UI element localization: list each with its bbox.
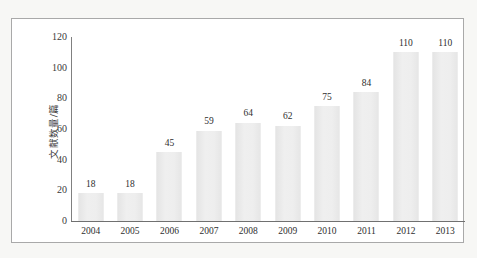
x-axis-tick-label: 2013 bbox=[436, 227, 455, 237]
bar-value-label: 84 bbox=[362, 79, 372, 89]
bar-2005[interactable] bbox=[118, 193, 143, 221]
bar-group[interactable]: 642008 bbox=[229, 37, 268, 221]
bar-2008[interactable] bbox=[236, 123, 261, 221]
x-axis-tick-label: 2012 bbox=[396, 227, 415, 237]
bar-group[interactable]: 842011 bbox=[347, 37, 386, 221]
chart-figure-frame: 文献数量/篇 020406080100120182004182005452006… bbox=[11, 18, 464, 243]
x-axis-line bbox=[71, 221, 465, 222]
bar-group[interactable]: 452006 bbox=[150, 37, 189, 221]
bar-value-label: 64 bbox=[244, 109, 254, 119]
bar-value-label: 59 bbox=[204, 117, 214, 127]
x-axis-tick-label: 2010 bbox=[318, 227, 337, 237]
bar-2010[interactable] bbox=[315, 106, 340, 221]
y-axis-tick-label: 120 bbox=[52, 32, 67, 42]
y-axis-tick-label: 0 bbox=[62, 216, 67, 226]
y-axis-tick-label: 100 bbox=[52, 63, 67, 73]
bar-2012[interactable] bbox=[393, 52, 418, 221]
x-axis-tick-label: 2006 bbox=[160, 227, 179, 237]
bar-group[interactable]: 1102013 bbox=[426, 37, 465, 221]
plot-area: 0204060801001201820041820054520065920076… bbox=[71, 37, 465, 221]
bar-value-label: 62 bbox=[283, 112, 293, 122]
bar-group[interactable]: 752010 bbox=[307, 37, 346, 221]
bar-2006[interactable] bbox=[157, 152, 182, 221]
bar-group[interactable]: 1102012 bbox=[386, 37, 425, 221]
x-axis-tick-label: 2011 bbox=[357, 227, 376, 237]
x-axis-tick-label: 2008 bbox=[239, 227, 258, 237]
y-axis-tick-label: 80 bbox=[57, 93, 67, 103]
bar-2004[interactable] bbox=[78, 193, 103, 221]
x-axis-tick-label: 2009 bbox=[278, 227, 297, 237]
bar-group[interactable]: 182004 bbox=[71, 37, 110, 221]
bar-value-label: 75 bbox=[322, 93, 332, 103]
bar-group[interactable]: 592007 bbox=[189, 37, 228, 221]
bar-value-label: 110 bbox=[399, 39, 413, 49]
bar-value-label: 18 bbox=[86, 180, 96, 190]
y-axis-tick-label: 40 bbox=[57, 155, 67, 165]
y-axis-tick-label: 20 bbox=[57, 185, 67, 195]
x-axis-tick-label: 2004 bbox=[81, 227, 100, 237]
bar-2007[interactable] bbox=[196, 131, 221, 221]
bar-2011[interactable] bbox=[354, 92, 379, 221]
bar-value-label: 110 bbox=[438, 39, 452, 49]
x-axis-tick-label: 2007 bbox=[199, 227, 218, 237]
bar-group[interactable]: 182005 bbox=[110, 37, 149, 221]
bar-2013[interactable] bbox=[433, 52, 458, 221]
bar-group[interactable]: 622009 bbox=[268, 37, 307, 221]
bar-value-label: 45 bbox=[165, 139, 175, 149]
bar-value-label: 18 bbox=[125, 180, 135, 190]
bar-2009[interactable] bbox=[275, 126, 300, 221]
y-axis-tick-label: 60 bbox=[57, 124, 67, 134]
x-axis-tick-label: 2005 bbox=[121, 227, 140, 237]
